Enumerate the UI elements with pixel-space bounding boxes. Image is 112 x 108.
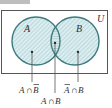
svg-text:∩: ∩ xyxy=(48,96,55,106)
label-not-a-and-b: A ∩ B xyxy=(63,85,84,96)
label-a-and-b: A ∩ B xyxy=(40,96,61,106)
svg-text:∩: ∩ xyxy=(26,85,33,95)
set-b-label: B xyxy=(76,23,82,34)
svg-text:A: A xyxy=(18,85,25,95)
universe-label: U xyxy=(97,13,105,24)
svg-text:B: B xyxy=(55,96,61,106)
header-fragment xyxy=(0,0,30,4)
svg-text:A: A xyxy=(63,85,70,95)
set-a-label: A xyxy=(23,23,31,34)
label-a-and-not-b: A ∩ B xyxy=(18,85,39,96)
svg-text:B: B xyxy=(33,85,39,95)
svg-text:B: B xyxy=(78,85,84,95)
venn-diagram: U A B A ∩ B A ∩ B A ∩ B xyxy=(0,0,112,108)
svg-text:∩: ∩ xyxy=(71,85,78,95)
svg-text:A: A xyxy=(40,96,47,106)
